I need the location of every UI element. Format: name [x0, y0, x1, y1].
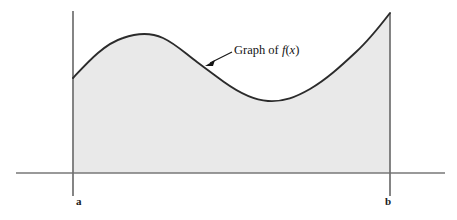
- annotation-arrowhead-icon: [205, 60, 215, 66]
- lower-bound-label-a: a: [76, 196, 82, 207]
- upper-bound-label-b: b: [385, 196, 391, 207]
- figure-canvas: [0, 0, 457, 220]
- shaded-area-under-curve: [73, 13, 390, 173]
- annotation-prefix-text: Graph of: [234, 43, 282, 57]
- area-under-curve-figure: Graph of f(x) a b: [0, 0, 457, 220]
- curve-annotation-label: Graph of f(x): [234, 44, 299, 57]
- annotation-close-paren: ): [295, 43, 299, 57]
